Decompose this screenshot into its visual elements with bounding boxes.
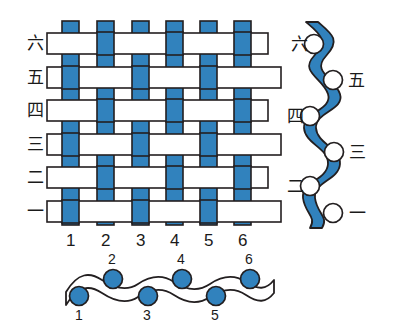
warp-node-label-4: 四 bbox=[287, 108, 304, 125]
weft-node-2 bbox=[104, 270, 123, 289]
warp-4-over-row4 bbox=[166, 99, 183, 122]
column-label-6: 6 bbox=[238, 232, 247, 249]
warp-6-over-row2 bbox=[234, 166, 251, 189]
column-label-1: 1 bbox=[66, 232, 75, 249]
weft-1 bbox=[47, 201, 281, 222]
weft-node-label-6: 6 bbox=[245, 252, 253, 266]
warp-5-over-row1 bbox=[200, 200, 217, 223]
weft-node-5 bbox=[207, 287, 226, 306]
warp-1-over-row3 bbox=[62, 133, 79, 156]
row-label-2: 二 bbox=[27, 169, 44, 186]
row-label-1: 一 bbox=[27, 203, 44, 220]
row-label-4: 四 bbox=[27, 102, 44, 119]
warp-1-over-row5 bbox=[62, 66, 79, 89]
warp-4-over-row6 bbox=[166, 32, 183, 55]
warp-1-over-row1 bbox=[62, 200, 79, 223]
column-label-3: 3 bbox=[136, 232, 145, 249]
weft-row-3 bbox=[47, 134, 281, 155]
weft-5 bbox=[47, 67, 281, 88]
row-label-5: 五 bbox=[27, 69, 44, 86]
warp-6-over-row4 bbox=[234, 99, 251, 122]
bottom-weft-wave-group bbox=[66, 270, 274, 306]
row-label-3: 三 bbox=[27, 136, 44, 153]
weave-diagram-figure: .warp { fill: #3182bd; stroke: #231f20; … bbox=[0, 0, 398, 329]
weft-row-1 bbox=[47, 201, 281, 222]
warp-3-over-row3 bbox=[132, 133, 149, 156]
warp-node-1 bbox=[324, 204, 343, 223]
weft-node-label-1: 1 bbox=[75, 308, 83, 322]
weft-row-5 bbox=[47, 67, 281, 88]
weft-node-4 bbox=[173, 270, 192, 289]
column-label-2: 2 bbox=[101, 232, 110, 249]
warp-node-3 bbox=[325, 143, 344, 162]
warp-3-over-row1 bbox=[132, 200, 149, 223]
warp-5-over-row5 bbox=[200, 66, 217, 89]
warp-node-label-6: 六 bbox=[291, 36, 308, 53]
warp-6-over-row6 bbox=[234, 32, 251, 55]
weft-node-label-5: 5 bbox=[211, 308, 219, 322]
warp-4-over-row2 bbox=[166, 166, 183, 189]
main-weave-svg: .warp { fill: #3182bd; stroke: #231f20; … bbox=[0, 0, 398, 329]
column-label-5: 5 bbox=[204, 232, 213, 249]
warp-node-label-3: 三 bbox=[349, 144, 366, 161]
weft-node-6 bbox=[241, 270, 260, 289]
warp-5-over-row3 bbox=[200, 133, 217, 156]
warp-2-over-row2 bbox=[97, 166, 114, 189]
column-label-4: 4 bbox=[170, 232, 179, 249]
warp-front-floats bbox=[62, 32, 251, 223]
row-label-6: 六 bbox=[27, 35, 44, 52]
warp-2-over-row4 bbox=[97, 99, 114, 122]
warp-node-label-1: 一 bbox=[349, 205, 366, 222]
weft-node-3 bbox=[139, 287, 158, 306]
weft-3 bbox=[47, 134, 281, 155]
weft-node-1 bbox=[70, 287, 89, 306]
weft-node-label-4: 4 bbox=[177, 252, 185, 266]
weft-node-label-2: 2 bbox=[108, 252, 116, 266]
warp-2-over-row6 bbox=[97, 32, 114, 55]
warp-node-label-2: 二 bbox=[287, 178, 304, 195]
warp-node-5 bbox=[324, 71, 343, 90]
warp-3-over-row5 bbox=[132, 66, 149, 89]
warp-node-label-5: 五 bbox=[348, 72, 365, 89]
weft-node-label-3: 3 bbox=[143, 308, 151, 322]
